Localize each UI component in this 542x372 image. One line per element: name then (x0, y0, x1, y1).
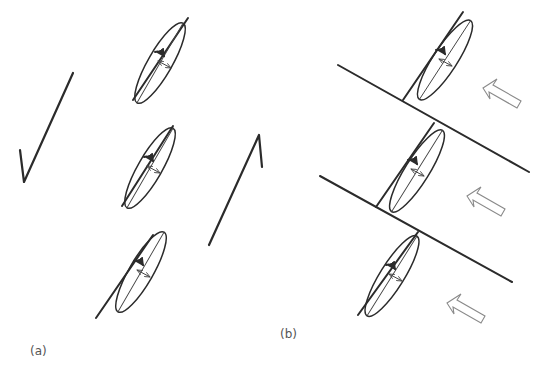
cell-unit-a2 (117, 122, 184, 214)
force-arrows (408, 160, 424, 177)
panel-a (20, 17, 262, 318)
force-arrows (134, 261, 150, 278)
tangent-line (133, 18, 188, 100)
force-arrows (155, 52, 171, 69)
cell-unit-b1 (403, 12, 481, 106)
boundary-line-upper (338, 65, 529, 172)
major-axis (392, 130, 443, 211)
cell-unit-a1 (127, 17, 194, 109)
figure-canvas (0, 0, 542, 372)
boundary-line-lower (320, 176, 512, 282)
force-arrows (436, 50, 452, 67)
tangent-line (376, 123, 434, 207)
flow-arrow-icon (467, 187, 505, 216)
flow-arrow-icon (483, 79, 521, 108)
check-stroke (20, 73, 73, 182)
panel-label-b: (b) (280, 327, 297, 341)
cell-unit-a3 (96, 226, 174, 318)
cell-unit-b3 (357, 230, 427, 322)
mirrored-check-stroke (209, 135, 262, 245)
cell-unit-b2 (376, 123, 453, 218)
panel-label-a: (a) (30, 344, 47, 358)
flow-arrow-icon (447, 294, 485, 323)
panel-b (320, 12, 529, 323)
major-axis (419, 21, 470, 100)
major-axis (137, 23, 183, 103)
